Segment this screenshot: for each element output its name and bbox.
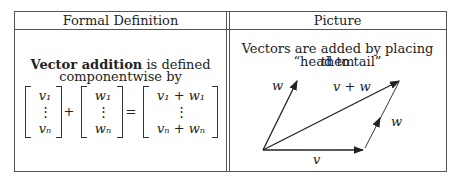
label-w-left: w	[272, 78, 283, 93]
label-w-right: w	[391, 114, 402, 129]
vector-sum-arrow	[263, 81, 399, 150]
vector-diagram	[0, 0, 457, 179]
label-v: v	[313, 152, 320, 167]
label-v-plus-w: v + w	[333, 79, 371, 94]
vector-w-right-arrow	[376, 118, 380, 126]
